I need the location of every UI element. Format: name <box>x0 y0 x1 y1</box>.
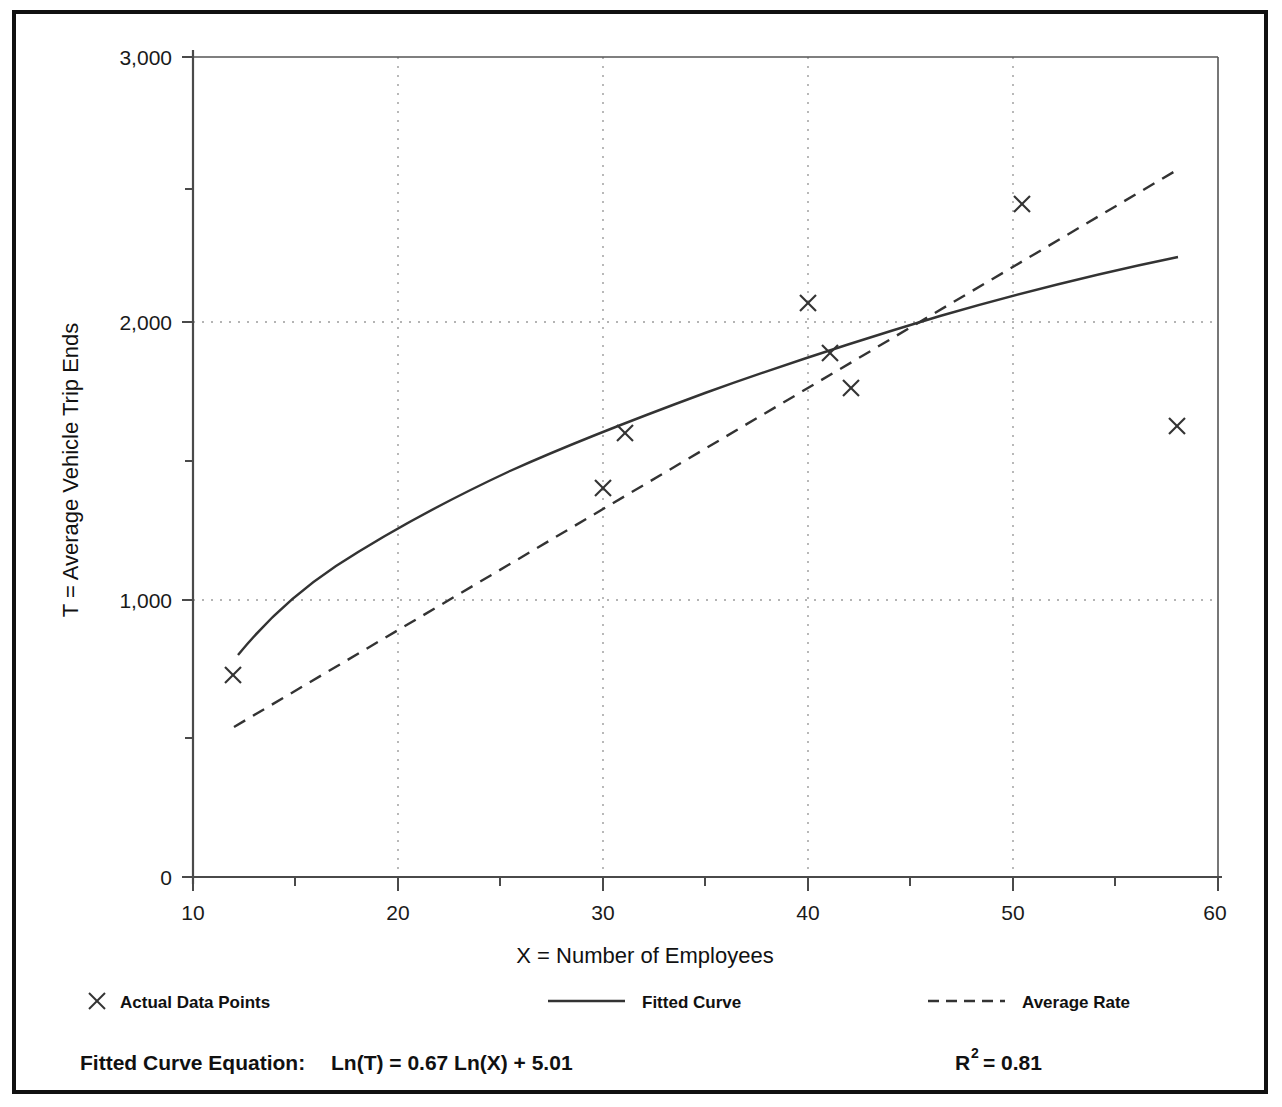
average-rate-line <box>234 170 1177 727</box>
axis-lines <box>186 50 1222 884</box>
data-point <box>225 667 241 683</box>
plot-bounds <box>193 57 1218 877</box>
equation-label: Fitted Curve Equation: <box>80 1051 305 1074</box>
data-point <box>595 480 611 496</box>
data-point <box>1169 418 1185 434</box>
x-marker-icon <box>89 993 105 1009</box>
legend-item-fitted-curve[interactable]: Fitted Curve <box>548 993 741 1012</box>
x-axis-title: X = Number of Employees <box>516 943 773 968</box>
legend-label-actual-data-points: Actual Data Points <box>120 993 270 1012</box>
r-squared-exponent: 2 <box>971 1045 979 1061</box>
data-point <box>1014 196 1030 212</box>
legend-label-fitted-curve: Fitted Curve <box>642 993 741 1012</box>
r-squared-base: R <box>955 1051 970 1074</box>
y-tick-label-3000: 3,000 <box>119 46 172 69</box>
chart-canvas: 3,000 2,000 1,000 0 10 20 30 40 50 60 T … <box>0 0 1282 1107</box>
x-tick-label-50: 50 <box>1001 901 1024 924</box>
y-axis-title: T = Average Vehicle Trip Ends <box>58 323 83 618</box>
data-point <box>800 295 816 311</box>
legend-label-average-rate: Average Rate <box>1022 993 1130 1012</box>
equation-formula: Ln(T) = 0.67 Ln(X) + 5.01 <box>331 1051 573 1074</box>
y-tick-label-0: 0 <box>160 866 172 889</box>
legend-item-actual-data-points[interactable]: Actual Data Points <box>89 993 270 1012</box>
x-axis-ticks <box>193 877 1218 891</box>
data-point <box>617 425 633 441</box>
data-point-markers <box>225 196 1185 683</box>
y-axis-ticks <box>182 57 193 877</box>
x-tick-label-30: 30 <box>591 901 614 924</box>
y-tick-label-2000: 2,000 <box>119 311 172 334</box>
x-tick-label-60: 60 <box>1203 901 1226 924</box>
x-tick-label-40: 40 <box>796 901 819 924</box>
x-tick-label-10: 10 <box>181 901 204 924</box>
gridlines <box>193 57 1218 877</box>
fitted-curve-line <box>238 257 1178 655</box>
y-tick-label-1000: 1,000 <box>119 589 172 612</box>
x-tick-label-20: 20 <box>386 901 409 924</box>
r-squared-value: = 0.81 <box>983 1051 1042 1074</box>
data-point <box>843 380 859 396</box>
legend-item-average-rate[interactable]: Average Rate <box>928 993 1130 1012</box>
